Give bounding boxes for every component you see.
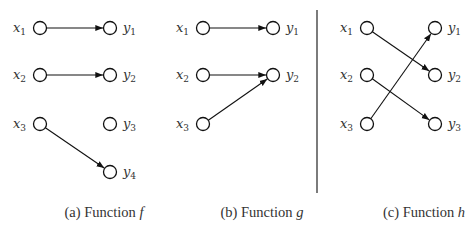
domain-node-g-x2 — [197, 69, 210, 82]
caption-b: (b) Function g — [221, 204, 304, 221]
codomain-label-g-y1: y1 — [285, 20, 299, 37]
domain-label-h-x2: x2 — [340, 67, 353, 84]
domain-node-h-x3 — [361, 118, 374, 131]
caption-prefix: (a) Function — [65, 204, 140, 221]
codomain-node-f-y3 — [104, 118, 117, 131]
codomain-label-f-y4: y4 — [122, 164, 136, 181]
codomain-node-h-y2 — [429, 69, 442, 82]
codomain-label-h-y1: y1 — [447, 20, 461, 37]
domain-label-h-x1: x1 — [340, 20, 353, 37]
codomain-node-h-y3 — [429, 118, 442, 131]
mapping-arrow-f-x3-to-y4 — [45, 128, 104, 168]
caption-c: (c) Function h — [383, 204, 465, 221]
mapping-arrow-h-x1-to-y2 — [372, 32, 429, 71]
domain-node-h-x2 — [361, 69, 374, 82]
panel-c: x1x2x3y1y2y3(c) Function h — [340, 20, 465, 221]
codomain-label-f-y3-subscript: 3 — [130, 123, 136, 133]
codomain-label-h-y1-subscript: 1 — [455, 27, 461, 37]
domain-node-g-x3 — [197, 118, 210, 131]
codomain-label-f-y1-subscript: 1 — [130, 27, 136, 37]
domain-label-g-x3: x3 — [176, 116, 189, 133]
codomain-node-f-y1 — [104, 22, 117, 35]
domain-node-f-x1 — [34, 22, 47, 35]
panels-group: x1x2x3y1y2y3y4(a) Function fx1x2x3y1y2(b… — [13, 20, 465, 221]
codomain-label-h-y2-subscript: 2 — [455, 74, 461, 84]
codomain-label-h-y3: y3 — [447, 116, 461, 133]
caption-prefix: (c) Function — [383, 204, 458, 221]
codomain-label-g-y1-subscript: 1 — [293, 27, 299, 37]
mapping-arrow-g-x3-to-y2 — [208, 79, 267, 120]
caption-function-name: h — [458, 204, 465, 220]
codomain-node-f-y4 — [104, 166, 117, 179]
codomain-label-g-y2-subscript: 2 — [293, 74, 299, 84]
panel-a: x1x2x3y1y2y3y4(a) Function f — [13, 20, 146, 221]
domain-label-f-x2: x2 — [13, 67, 26, 84]
codomain-label-g-y2: y2 — [285, 67, 299, 84]
domain-label-g-x1: x1 — [176, 20, 189, 37]
domain-label-f-x2-subscript: 2 — [20, 74, 26, 84]
domain-label-h-x3: x3 — [340, 116, 353, 133]
domain-label-f-x3: x3 — [13, 116, 26, 133]
domain-label-g-x2-subscript: 2 — [183, 74, 189, 84]
codomain-label-f-y2-subscript: 2 — [130, 74, 136, 84]
panel-b: x1x2x3y1y2(b) Function g — [176, 20, 304, 221]
domain-label-g-x2: x2 — [176, 67, 189, 84]
caption-a: (a) Function f — [65, 204, 146, 221]
domain-node-f-x3 — [34, 118, 47, 131]
caption-function-name: f — [139, 204, 145, 220]
domain-label-g-x3-subscript: 3 — [183, 123, 189, 133]
codomain-label-f-y1: y1 — [122, 20, 136, 37]
caption-function-name: g — [296, 204, 303, 220]
codomain-node-f-y2 — [104, 69, 117, 82]
codomain-label-f-y3: y3 — [122, 116, 136, 133]
domain-node-g-x1 — [197, 22, 210, 35]
mapping-arrow-h-x3-to-y1 — [371, 34, 431, 119]
codomain-label-h-y2: y2 — [447, 67, 461, 84]
domain-label-h-x3-subscript: 3 — [347, 123, 353, 133]
codomain-node-g-y2 — [267, 69, 280, 82]
codomain-label-f-y2: y2 — [122, 67, 136, 84]
domain-label-h-x1-subscript: 1 — [347, 27, 353, 37]
codomain-node-h-y1 — [429, 22, 442, 35]
domain-label-f-x3-subscript: 3 — [20, 123, 26, 133]
domain-label-h-x2-subscript: 2 — [347, 74, 353, 84]
domain-label-f-x1: x1 — [13, 20, 26, 37]
caption-prefix: (b) Function — [221, 204, 297, 221]
domain-node-f-x2 — [34, 69, 47, 82]
domain-label-g-x1-subscript: 1 — [183, 27, 189, 37]
domain-node-h-x1 — [361, 22, 374, 35]
codomain-node-g-y1 — [267, 22, 280, 35]
mapping-arrow-h-x2-to-y3 — [372, 79, 429, 120]
domain-label-f-x1-subscript: 1 — [20, 27, 26, 37]
codomain-label-f-y4-subscript: 4 — [130, 171, 136, 181]
codomain-label-h-y3-subscript: 3 — [455, 123, 461, 133]
function-mapping-diagram: x1x2x3y1y2y3y4(a) Function fx1x2x3y1y2(b… — [0, 0, 467, 229]
